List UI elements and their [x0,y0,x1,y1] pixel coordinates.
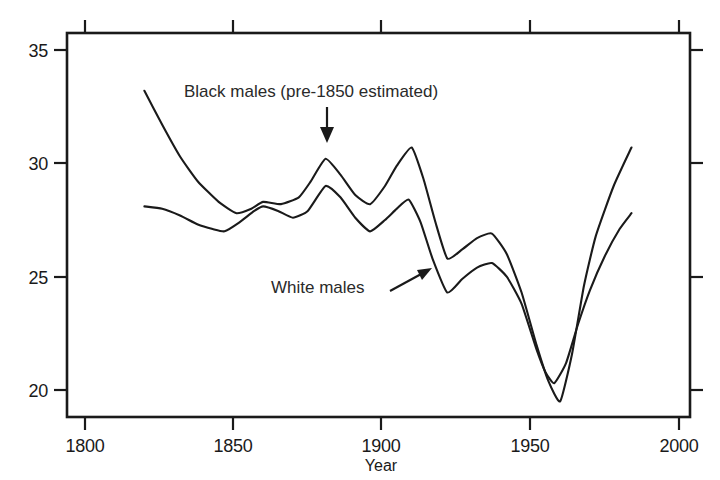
y-tick-label-20: 20 [29,381,49,401]
white-males-annotation: White males [271,268,432,297]
x-tick-label-1950: 1950 [511,436,550,456]
x-axis-ticks-top [85,20,679,33]
x-tick-label-1900: 1900 [362,436,401,456]
white-males-annotation-label: White males [271,278,365,297]
x-axis-ticks-bottom [85,417,679,430]
y-axis-ticks-left [54,50,67,390]
series-line-black-males [144,91,631,402]
series-line-white-males [144,186,631,383]
x-tick-label-1800: 1800 [66,436,105,456]
x-tick-label-1850: 1850 [214,436,253,456]
y-tick-label-30: 30 [29,154,49,174]
chart-figure: 35 30 25 20 1800 1850 1900 1950 2000 Yea… [0,0,720,480]
black-males-annotation-label: Black males (pre-1850 estimated) [184,82,438,101]
y-tick-label-35: 35 [29,41,49,61]
white-males-arrow-shaft [390,273,423,291]
y-tick-label-25: 25 [29,268,49,288]
x-tick-label-2000: 2000 [660,436,699,456]
up-right-arrow-icon [417,268,432,280]
line-chart-svg: 35 30 25 20 1800 1850 1900 1950 2000 Yea… [0,0,720,480]
y-axis-ticks-right [690,50,703,390]
black-males-annotation: Black males (pre-1850 estimated) [184,82,438,143]
down-arrow-icon [320,127,334,143]
x-axis-title: Year [365,457,398,474]
